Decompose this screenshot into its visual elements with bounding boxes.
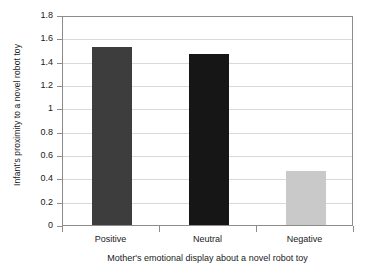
x-axis-tick-mark: [353, 226, 354, 232]
bar-negative[interactable]: [286, 171, 326, 225]
y-axis-tick-label: 1.8: [40, 10, 53, 21]
x-axis-title: Mother's emotional display about a novel…: [62, 252, 353, 264]
y-axis-tick-label: 1.6: [40, 33, 53, 44]
x-axis-label-neutral: Neutral: [159, 233, 256, 245]
bar-positive[interactable]: [92, 47, 132, 226]
y-axis-tick-label: 0.4: [40, 173, 53, 184]
x-axis-tick-mark: [62, 226, 63, 232]
y-axis-tick-label: 0.2: [40, 197, 53, 208]
y-axis-tick-label: 0.8: [40, 127, 53, 138]
bar-chart-figure: Infant's proximity to a novel robot toy …: [0, 0, 367, 275]
y-axis-tick-label: 0.6: [40, 150, 53, 161]
y-axis-tick-label: 1: [48, 103, 53, 114]
y-axis-tick-label: 0: [48, 220, 53, 231]
x-axis-label-negative: Negative: [256, 233, 353, 245]
y-axis-title: Infant's proximity to a novel robot toy: [9, 2, 25, 228]
plot-area: [62, 16, 353, 226]
bar-neutral[interactable]: [189, 54, 229, 226]
gridline: [63, 39, 352, 40]
x-axis-label-positive: Positive: [62, 233, 159, 245]
x-axis-tick-mark: [159, 226, 160, 232]
x-axis-tick-mark: [256, 226, 257, 232]
y-axis-tick-label: 1.2: [40, 80, 53, 91]
y-axis-tick-label: 1.4: [40, 57, 53, 68]
